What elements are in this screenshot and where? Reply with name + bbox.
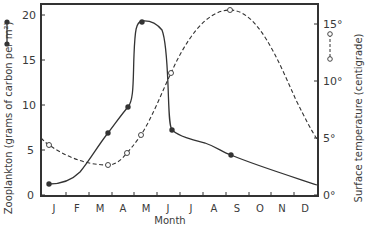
left-tick-20: 20 [22, 9, 36, 22]
month-oct: O [256, 203, 264, 214]
zooplankton-point [105, 130, 110, 135]
zooplankton-point [125, 104, 130, 109]
temperature-point [47, 143, 52, 148]
month-jun: J [166, 203, 170, 214]
temperature-point [106, 163, 111, 168]
zooplankton-curve [49, 21, 317, 185]
zooplankton-point [228, 152, 233, 157]
left-tick-0: 0 [27, 189, 34, 202]
month-may: M [142, 203, 151, 214]
month-nov: N [278, 203, 285, 214]
month-jan: J [52, 203, 56, 214]
month-mar: M [96, 203, 105, 214]
left-tick-10: 10 [22, 99, 36, 112]
month-apr: A [120, 203, 127, 214]
temperature-point [125, 151, 130, 156]
left-axis-title: Zooplankton (grams of carbon per m²) [3, 22, 14, 215]
right-tick-15: 15° [323, 18, 343, 31]
right-axis-title: Surface temperature (centigrade) [353, 33, 364, 202]
month-feb: F [74, 203, 80, 214]
zooplankton-points [46, 19, 233, 186]
temperature-legend-marker [328, 32, 333, 62]
temperature-curve [41, 10, 317, 165]
plot-frame [41, 4, 318, 196]
zooplankton-point [169, 127, 174, 132]
month-jul: J [189, 203, 193, 214]
month-dec: D [301, 203, 309, 214]
temperature-point [139, 133, 144, 138]
temperature-point [169, 71, 174, 76]
zooplankton-temperature-chart: 0 5 10 15 20 0° 5° 10° 15° [0, 0, 369, 227]
zooplankton-point [46, 181, 51, 186]
month-sep: S [234, 203, 240, 214]
right-tick-10: 10° [323, 75, 343, 88]
right-tick-5: 5° [323, 132, 336, 145]
month-labels: J F M A M J J A S O N D [52, 203, 310, 214]
right-tick-0: 0° [323, 189, 336, 202]
temperature-point [228, 8, 233, 13]
month-aug: A [211, 203, 218, 214]
left-tick-labels: 0 5 10 15 20 [22, 9, 36, 202]
right-tick-labels: 0° 5° 10° 15° [323, 18, 343, 202]
left-tick-15: 15 [22, 54, 36, 67]
left-tick-5: 5 [27, 144, 34, 157]
x-axis-title: Month [154, 215, 185, 226]
zooplankton-point [139, 19, 144, 24]
